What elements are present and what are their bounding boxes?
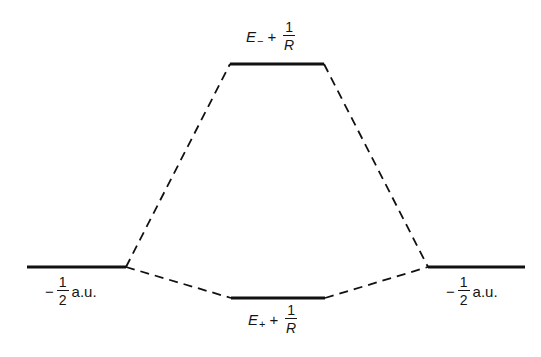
connector-left-to-bonding <box>126 267 231 298</box>
energy-subscript: − <box>257 35 263 47</box>
fraction-numerator: 1 <box>285 303 297 319</box>
energy-symbol: E <box>248 311 258 328</box>
fraction-denominator: 2 <box>460 291 468 307</box>
bonding-energy-label: E+ + 1 R <box>248 303 300 335</box>
minus-sign: − <box>45 283 54 300</box>
connector-antibonding-to-right <box>324 64 428 267</box>
fraction-denominator: R <box>286 319 296 335</box>
fraction-numerator: 1 <box>57 275 69 291</box>
connector-left-to-antibonding <box>126 64 230 267</box>
energy-symbol: E <box>246 28 256 45</box>
right-atomic-energy-label: − 1 2 a.u. <box>446 275 498 307</box>
fraction: 1 R <box>285 303 297 335</box>
minus-sign: − <box>446 283 455 300</box>
antibonding-energy-label: E− + 1 R <box>246 20 298 52</box>
unit-label: a.u. <box>72 283 97 300</box>
energy-subscript: + <box>259 318 265 330</box>
connector-bonding-to-right <box>325 267 428 298</box>
plus-operator: + <box>267 28 276 45</box>
fraction-denominator: R <box>284 36 294 52</box>
fraction: 1 R <box>283 20 295 52</box>
left-atomic-energy-label: − 1 2 a.u. <box>45 275 97 307</box>
fraction-denominator: 2 <box>59 291 67 307</box>
fraction-numerator: 1 <box>283 20 295 36</box>
fraction-numerator: 1 <box>458 275 470 291</box>
plus-operator: + <box>269 311 278 328</box>
fraction: 1 2 <box>57 275 69 307</box>
fraction: 1 2 <box>458 275 470 307</box>
unit-label: a.u. <box>473 283 498 300</box>
